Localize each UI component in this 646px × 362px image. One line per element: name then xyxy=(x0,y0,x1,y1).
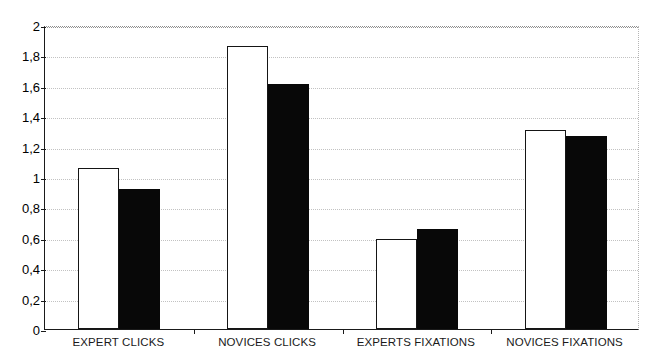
plot-area xyxy=(44,26,639,330)
y-axis-tick-mark xyxy=(41,270,46,271)
bar xyxy=(417,229,458,329)
x-axis-tick-mark xyxy=(194,329,195,334)
y-axis-tick-mark xyxy=(41,149,46,150)
y-axis-tick-mark xyxy=(41,27,46,28)
y-axis-tick-label: 1,8 xyxy=(0,50,40,63)
y-axis-tick-mark xyxy=(41,301,46,302)
y-axis-tick-mark xyxy=(41,209,46,210)
x-axis-tick-mark xyxy=(491,329,492,334)
bar-chart: 21,81,61,41,210,80,60,40,20 EXPERT CLICK… xyxy=(0,0,646,362)
y-axis-tick-mark xyxy=(41,57,46,58)
bar xyxy=(78,168,119,329)
y-axis-tick-label: 1,4 xyxy=(0,111,40,124)
bar xyxy=(376,239,417,329)
bar xyxy=(566,136,607,329)
y-axis-tick-mark xyxy=(41,179,46,180)
y-axis-tick-label: 0 xyxy=(0,324,40,337)
bar xyxy=(119,189,160,329)
x-axis-category-label: NOVICES CLICKS xyxy=(193,336,342,348)
x-axis-category-label: NOVICES FIXATIONS xyxy=(490,336,639,348)
y-axis-tick-mark xyxy=(41,331,46,332)
gridline xyxy=(45,88,638,89)
y-axis-tick-mark xyxy=(41,118,46,119)
y-axis-tick-label: 1,6 xyxy=(0,80,40,93)
y-axis-labels: 21,81,61,41,210,80,60,40,20 xyxy=(0,26,40,330)
gridline xyxy=(45,57,638,58)
gridline xyxy=(45,27,638,28)
bar xyxy=(227,46,268,329)
gridline xyxy=(45,118,638,119)
y-axis-tick-label: 0,6 xyxy=(0,232,40,245)
y-axis-tick-mark xyxy=(41,240,46,241)
bar xyxy=(525,130,566,329)
y-axis-tick-label: 1,2 xyxy=(0,141,40,154)
bar xyxy=(268,84,309,329)
chart-title-clipped xyxy=(0,0,646,8)
x-axis-category-label: EXPERTS FIXATIONS xyxy=(342,336,491,348)
y-axis-tick-mark xyxy=(41,88,46,89)
y-axis-tick-label: 2 xyxy=(0,20,40,33)
x-axis-tick-mark xyxy=(343,329,344,334)
y-axis-tick-label: 0,8 xyxy=(0,202,40,215)
x-axis-category-label: EXPERT CLICKS xyxy=(44,336,193,348)
x-axis-labels: EXPERT CLICKSNOVICES CLICKSEXPERTS FIXAT… xyxy=(44,336,639,356)
y-axis-tick-label: 1 xyxy=(0,172,40,185)
y-axis-tick-label: 0,2 xyxy=(0,293,40,306)
y-axis-tick-label: 0,4 xyxy=(0,263,40,276)
